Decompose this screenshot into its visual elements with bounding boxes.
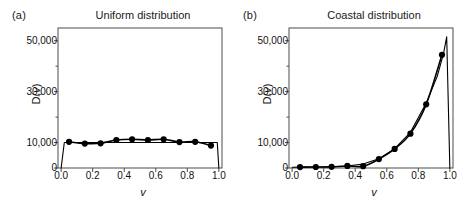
x-axis-tick-label: 0.0 bbox=[275, 170, 309, 181]
x-axis-tick-label: 0.6 bbox=[370, 170, 404, 181]
y-axis-tick-label: 10,000 bbox=[5, 138, 57, 148]
data-point-marker bbox=[66, 139, 72, 145]
data-point-marker bbox=[97, 140, 103, 146]
data-point-marker bbox=[176, 139, 182, 145]
x-axis-tick-label: 0.8 bbox=[401, 170, 435, 181]
x-axis-tick-label: 0.6 bbox=[139, 170, 173, 181]
x-axis-tick-label: 0.0 bbox=[44, 170, 78, 181]
data-point-marker bbox=[344, 163, 350, 169]
data-point-marker bbox=[423, 101, 429, 107]
panel-uniform-distribution: (a) Uniform distribution D(v) v 010,0003… bbox=[0, 0, 231, 209]
y-axis-tick-label: 30,000 bbox=[236, 87, 288, 97]
plot-frame bbox=[58, 28, 222, 168]
data-point-marker bbox=[82, 140, 88, 146]
data-point-marker bbox=[145, 137, 151, 143]
data-point-marker bbox=[360, 163, 366, 169]
x-axis-tick-label: 0.4 bbox=[338, 170, 372, 181]
x-axis-tick-label: 1.0 bbox=[433, 170, 462, 181]
data-point-marker bbox=[376, 156, 382, 162]
x-axis-tick-label: 0.2 bbox=[76, 170, 110, 181]
data-point-marker bbox=[129, 136, 135, 142]
data-point-marker bbox=[113, 137, 119, 143]
x-axis-tick-label: 0.2 bbox=[307, 170, 341, 181]
x-axis-tick-label: 0.8 bbox=[170, 170, 204, 181]
y-axis-tick-label: 30,000 bbox=[5, 87, 57, 97]
data-point-marker bbox=[192, 139, 198, 145]
y-axis-tick-label: 10,000 bbox=[236, 138, 288, 148]
data-point-marker bbox=[208, 143, 214, 149]
panel-coastal-distribution: (b) Coastal distribution D(v) v 010,0003… bbox=[231, 0, 462, 209]
figure-container: (a) Uniform distribution D(v) v 010,0003… bbox=[0, 0, 462, 209]
data-point-marker bbox=[161, 136, 167, 142]
data-point-marker bbox=[439, 52, 445, 58]
data-connector-line bbox=[300, 55, 442, 167]
data-point-marker bbox=[392, 146, 398, 152]
y-axis-tick-label: 50,000 bbox=[5, 36, 57, 46]
x-axis-tick-label: 0.4 bbox=[107, 170, 141, 181]
y-axis-tick-label: 50,000 bbox=[236, 36, 288, 46]
data-point-marker bbox=[407, 131, 413, 137]
